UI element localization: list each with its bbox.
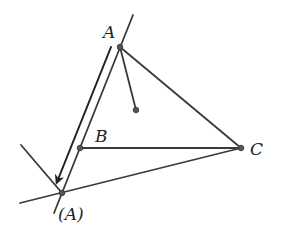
segment-a-interior bbox=[120, 47, 136, 110]
point-b bbox=[77, 145, 83, 151]
line-a-prime-c bbox=[20, 148, 241, 203]
point-c bbox=[238, 145, 244, 151]
geometry-diagram: A B C (A) bbox=[0, 0, 285, 239]
label-c: C bbox=[250, 139, 263, 159]
point-a-prime bbox=[59, 190, 65, 196]
point-a bbox=[117, 44, 123, 50]
move-arrow bbox=[57, 47, 111, 182]
segment-ac bbox=[120, 47, 241, 148]
label-b: B bbox=[94, 126, 108, 146]
line-through-a-prime bbox=[21, 145, 62, 193]
point-interior bbox=[133, 107, 139, 113]
label-a: A bbox=[101, 22, 115, 42]
label-a-prime: (A) bbox=[58, 204, 84, 224]
